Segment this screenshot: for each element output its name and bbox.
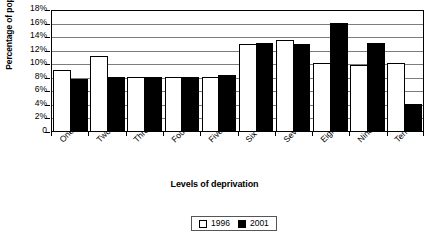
bar-2001 xyxy=(256,43,274,131)
y-axis-tick-mark xyxy=(45,91,50,92)
y-axis-tick-labels: 02%4%6%8%10%12%14%16%18% xyxy=(14,8,47,132)
bar-1996 xyxy=(53,70,71,131)
y-axis-tick-mark xyxy=(45,10,50,11)
bar-group xyxy=(89,11,126,131)
bar-2001 xyxy=(330,23,348,131)
legend-entry: 1996 xyxy=(199,219,230,228)
bar-2001 xyxy=(181,77,199,131)
bar-chart: Percentage of population 02%4%6%8%10%12%… xyxy=(0,0,429,246)
bar-group xyxy=(386,11,423,131)
y-axis-tick-mark xyxy=(45,78,50,79)
bar-group xyxy=(163,11,200,131)
bar-group xyxy=(200,11,237,131)
bar-group xyxy=(52,11,89,131)
plot-area xyxy=(51,10,424,132)
y-axis-tick-mark xyxy=(45,51,50,52)
x-axis-category-labels: OneTwoThreeFourFiveSixSevenEightNineTen xyxy=(51,136,424,172)
y-axis-tick-mark xyxy=(45,24,50,25)
bar-1996 xyxy=(313,63,331,131)
bar-1996 xyxy=(165,77,183,131)
bar-group xyxy=(237,11,274,131)
y-axis-tick-mark xyxy=(45,105,50,106)
black-square-icon xyxy=(238,220,246,228)
bar-groups xyxy=(52,11,423,131)
y-axis-tick-mark xyxy=(45,118,50,119)
x-axis-title: Levels of deprivation xyxy=(0,179,429,189)
bar-1996 xyxy=(350,65,368,131)
y-axis-tick-mark xyxy=(45,64,50,65)
bar-2001 xyxy=(107,77,125,131)
bar-group xyxy=(312,11,349,131)
legend-entry: 2001 xyxy=(238,219,269,228)
legend-label: 2001 xyxy=(250,219,269,228)
bar-group xyxy=(126,11,163,131)
y-axis-tick-mark xyxy=(45,37,50,38)
bar-2001 xyxy=(218,75,236,131)
bar-2001 xyxy=(144,77,162,131)
y-axis-tick-mark xyxy=(45,132,50,133)
bar-group xyxy=(349,11,386,131)
bar-1996 xyxy=(239,44,257,131)
bar-1996 xyxy=(387,63,405,131)
white-square-icon xyxy=(199,220,207,228)
bar-1996 xyxy=(90,56,108,131)
bar-2001 xyxy=(293,44,311,131)
bar-2001 xyxy=(70,79,88,131)
legend-label: 1996 xyxy=(211,219,230,228)
chart-legend: 19962001 xyxy=(191,216,277,231)
bar-group xyxy=(275,11,312,131)
bar-1996 xyxy=(276,40,294,132)
bar-1996 xyxy=(202,77,220,131)
bar-1996 xyxy=(127,77,145,131)
bar-2001 xyxy=(367,43,385,131)
bar-2001 xyxy=(404,104,422,131)
